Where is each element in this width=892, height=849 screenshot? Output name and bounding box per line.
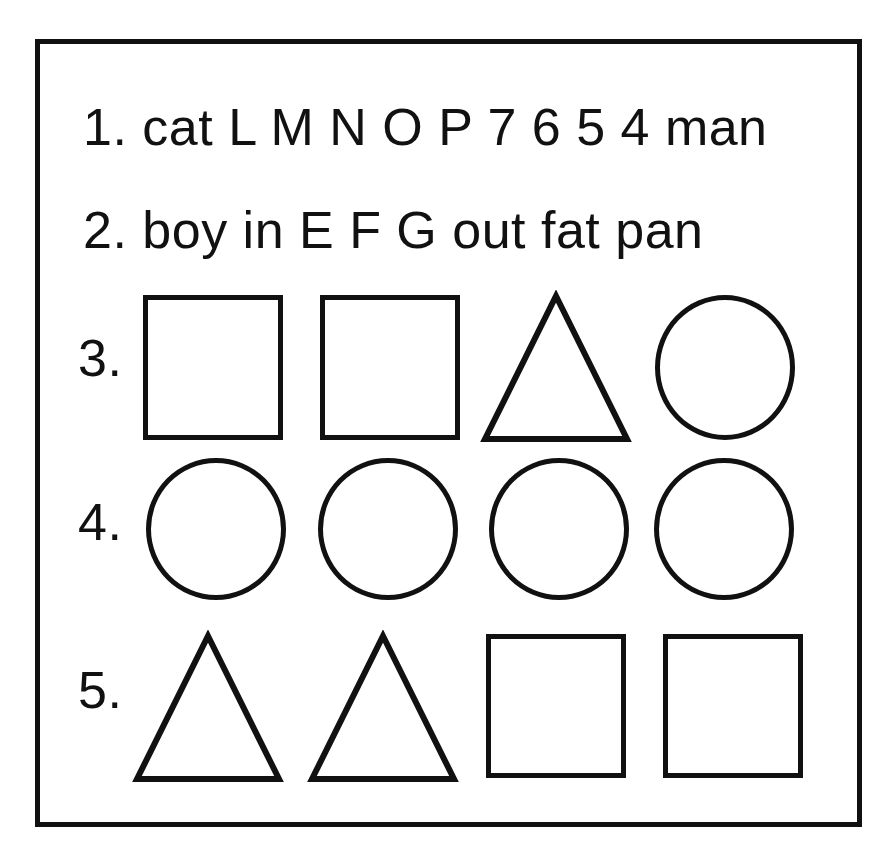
row-3-shape-2	[317, 282, 467, 452]
row-4-shape-3	[485, 452, 635, 622]
triangle-icon	[132, 630, 284, 785]
square-icon	[320, 295, 460, 440]
square-icon	[143, 295, 283, 440]
row-3-shape-4	[652, 282, 802, 452]
row-5-number: 5.	[78, 660, 140, 720]
row-5-shape-2	[307, 612, 457, 782]
row-5-shape-4	[660, 612, 810, 782]
triangle-icon	[480, 290, 632, 445]
worksheet-row-3: 3.	[40, 282, 857, 452]
row-4-number: 4.	[78, 492, 140, 552]
circle-icon	[318, 458, 458, 600]
circle-icon	[489, 458, 629, 600]
worksheet-row-2: 2. boy in E F G out fat pan	[83, 194, 704, 266]
square-icon	[663, 634, 803, 778]
row-3-shape-1	[140, 282, 290, 452]
worksheet-page: 1. cat L M N O P 7 6 5 4 man 2. boy in E…	[0, 0, 892, 849]
circle-icon	[146, 458, 286, 600]
circle-icon	[654, 458, 794, 600]
worksheet-row-4: 4.	[40, 452, 857, 622]
row-3-shape-3	[480, 282, 630, 452]
worksheet-row-5: 5.	[40, 612, 857, 782]
row-4-shape-4	[650, 452, 800, 622]
circle-icon	[655, 295, 795, 440]
row-3-number: 3.	[78, 328, 140, 388]
triangle-icon	[307, 630, 459, 785]
row-5-shape-3	[483, 612, 633, 782]
worksheet-row-1: 1. cat L M N O P 7 6 5 4 man	[83, 91, 768, 163]
square-icon	[486, 634, 626, 778]
row-4-shape-1	[142, 452, 292, 622]
worksheet-frame: 1. cat L M N O P 7 6 5 4 man 2. boy in E…	[35, 39, 862, 827]
row-4-shape-2	[314, 452, 464, 622]
row-5-shape-1	[132, 612, 282, 782]
